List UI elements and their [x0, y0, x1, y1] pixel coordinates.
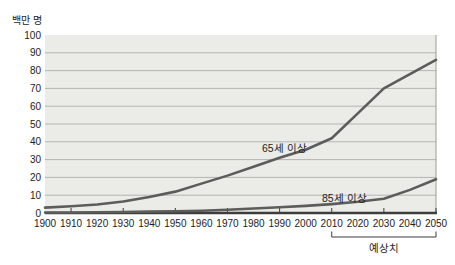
x-tick-label: 2020: [347, 218, 370, 229]
x-tick-label: 2000: [295, 218, 318, 229]
y-tick-label: 60: [30, 101, 42, 112]
x-tick-label: 2050: [425, 218, 448, 229]
y-tick-label: 30: [30, 154, 42, 165]
y-tick-label: 70: [30, 83, 42, 94]
x-tick-label: 1960: [190, 218, 213, 229]
y-tick-label: 50: [30, 119, 42, 130]
x-tick-label: 1910: [60, 218, 83, 229]
x-tick-label: 1940: [138, 218, 161, 229]
y-tick-label: 90: [30, 47, 42, 58]
x-tick-label: 1970: [216, 218, 239, 229]
forecast-bracket: [332, 232, 436, 238]
y-tick-label: 100: [24, 30, 41, 41]
line-chart-canvas: 0102030405060708090100190019101920193019…: [0, 0, 455, 265]
series-label-65-and-over: 65세 이상: [262, 140, 307, 155]
y-tick-label: 40: [30, 136, 42, 147]
x-tick-label: 1930: [112, 218, 135, 229]
x-tick-label: 1980: [242, 218, 265, 229]
population-projection-chart: 0102030405060708090100190019101920193019…: [0, 0, 455, 265]
x-tick-label: 2030: [373, 218, 396, 229]
x-tick-label: 1990: [268, 218, 291, 229]
x-tick-label: 1900: [34, 218, 57, 229]
x-tick-label: 2010: [321, 218, 344, 229]
series-label-85-and-over: 85세 이상: [322, 190, 367, 205]
x-tick-label: 2040: [399, 218, 422, 229]
y-tick-label: 10: [30, 190, 42, 201]
y-axis-title: 백만 명: [12, 12, 42, 27]
y-tick-label: 20: [30, 172, 42, 183]
x-tick-label: 1950: [164, 218, 187, 229]
y-tick-label: 80: [30, 65, 42, 76]
x-tick-label: 1920: [86, 218, 109, 229]
forecast-label: 예상치: [331, 240, 436, 255]
